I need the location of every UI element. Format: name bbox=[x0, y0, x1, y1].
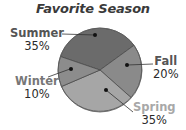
label-fall-pct: 20% bbox=[153, 68, 179, 81]
label-winter-name: Winter bbox=[15, 74, 59, 88]
label-winter-pct: 10% bbox=[15, 88, 59, 101]
label-spring-name: Spring bbox=[133, 100, 176, 114]
label-summer-name: Summer bbox=[10, 26, 64, 40]
label-summer-pct: 35% bbox=[10, 40, 64, 53]
label-winter: Winter 10% bbox=[15, 75, 59, 101]
label-summer: Summer 35% bbox=[10, 27, 64, 53]
label-fall-name: Fall bbox=[154, 54, 177, 68]
label-spring: Spring 35% bbox=[133, 101, 176, 127]
label-spring-pct: 35% bbox=[133, 114, 176, 127]
label-fall: Fall 20% bbox=[153, 55, 179, 81]
